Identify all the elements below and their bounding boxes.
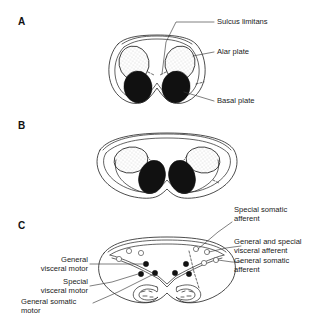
panel-c-outer-outline: [99, 237, 236, 303]
panel-c-artwork: [90, 222, 241, 303]
label-basal-plate: Basal plate: [217, 96, 255, 105]
label-general-somatic-motor: General somatic motor: [21, 297, 76, 316]
panel-b-artwork: [97, 133, 237, 198]
label-sulcus-limitans: Sulcus limitans: [217, 17, 268, 26]
label-general-visceral-motor: General visceral motor: [8, 255, 88, 274]
panel-c-motor-dot-gvm-left: [143, 261, 148, 266]
figure-root: A B C Sulcus limitans Alar plate Basal p…: [0, 0, 331, 334]
panel-c-motor-dot-svm-left: [152, 270, 157, 275]
panel-c-sensory-circle-extra-right: [201, 260, 206, 265]
panel-c-sensory-circle-ssa-left: [126, 248, 131, 253]
panel-c-motor-dot-svm-right: [172, 270, 177, 275]
label-general-and-special-visceral-afferent: General and special visceral afferent: [234, 237, 302, 256]
panel-c-sensory-circle-gsa-left: [116, 256, 121, 261]
label-special-visceral-motor: Special visceral motor: [8, 277, 88, 296]
panel-c-motor-dot-gsm-left: [138, 271, 143, 276]
label-special-somatic-afferent: Special somatic afferent: [234, 205, 287, 224]
panel-letter-c: C: [18, 221, 25, 231]
panel-c-motor-dot-gvm-right: [183, 261, 188, 266]
panel-a-artwork: [109, 22, 214, 105]
label-general-somatic-afferent: General somatic afferent: [234, 256, 289, 275]
panel-letter-b: B: [18, 121, 25, 131]
label-alar-plate: Alar plate: [217, 47, 249, 56]
panel-c-sensory-circle-gsva-left: [138, 250, 143, 255]
panel-c-motor-dot-gsm-right: [186, 271, 191, 276]
panel-letter-a: A: [18, 17, 25, 27]
